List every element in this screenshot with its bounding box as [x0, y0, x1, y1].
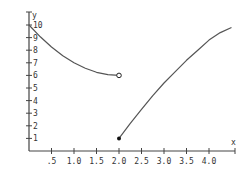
x-tick-label: 3.5: [179, 157, 194, 166]
x-tick-label: 1.0: [67, 157, 82, 166]
y-tick-label: 1: [33, 134, 38, 143]
x-tick-label: 4.0: [202, 157, 217, 166]
filled-dot-marker: [117, 136, 121, 140]
y-tick-label: 7: [33, 59, 38, 68]
function-plot: xy .51.01.52.02.53.03.54.012345678910: [0, 0, 251, 179]
y-tick-label: 4: [33, 97, 38, 106]
y-tick-label: 10: [33, 21, 43, 30]
y-tick-label: 8: [33, 46, 38, 55]
y-tick-label: 6: [33, 71, 38, 80]
axes: xy: [26, 11, 236, 154]
y-tick-label: 5: [33, 84, 38, 93]
x-tick-label: .5: [47, 157, 57, 166]
curve-left-piece: [29, 25, 119, 75]
x-tick-label: 1.5: [89, 157, 104, 166]
ticks: .51.01.52.02.53.03.54.012345678910: [26, 21, 216, 166]
y-tick-label: 2: [33, 122, 38, 131]
curve-right-piece: [119, 28, 232, 139]
open-circle-marker: [117, 73, 122, 78]
y-tick-label: 9: [33, 34, 38, 43]
x-tick-label: 2.0: [112, 157, 127, 166]
y-axis-label: y: [32, 11, 37, 20]
y-tick-label: 3: [33, 109, 38, 118]
x-tick-label: 3.0: [157, 157, 172, 166]
x-tick-label: 2.5: [134, 157, 149, 166]
curves: [29, 25, 232, 138]
endpoint-markers: [117, 73, 122, 140]
x-axis-label: x: [231, 138, 236, 147]
